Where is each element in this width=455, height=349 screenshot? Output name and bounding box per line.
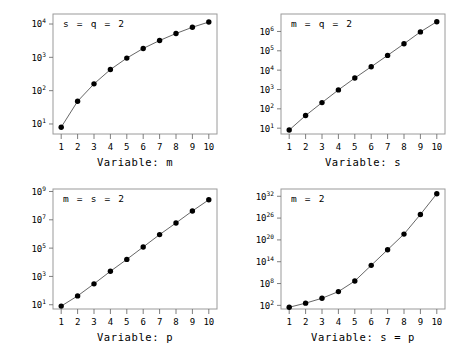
data-point-marker [287,127,292,132]
panel-annotation: m = 2 [291,193,326,204]
data-point-marker [141,244,146,249]
y-axis-tick-label: 105 [31,242,46,254]
y-axis-tick-label: 1020 [256,233,275,245]
x-axis-tick-label: 1 [286,317,291,327]
y-axis-tick-label: 101 [31,298,46,310]
data-point-marker [59,303,64,308]
y-axis-tick-label: 101 [31,117,46,129]
x-axis-tick-label: 9 [190,142,195,152]
data-point-marker [173,220,178,225]
data-point-marker [385,53,390,58]
x-axis-tick-label: 3 [319,317,324,327]
data-point-marker [157,38,162,43]
data-point-marker [418,212,423,217]
x-axis-tick-label: 1 [58,317,63,327]
x-axis-tick-label: 3 [319,142,324,152]
panel-annotation: m = s = 2 [63,193,125,204]
x-axis-tick-label: 10 [203,142,214,152]
data-point-marker [352,75,357,80]
data-point-marker [385,247,390,252]
x-axis-tick-label: 6 [368,142,373,152]
panel-annotation: s = q = 2 [63,18,125,29]
data-point-marker [190,208,195,213]
x-axis-tick-label: 8 [173,317,178,327]
x-axis-tick-label: 1 [286,142,291,152]
x-axis-tick-label: 3 [91,142,96,152]
y-axis-tick-label: 102 [259,102,274,114]
y-axis-tick-label: 105 [259,44,274,56]
figure-panel-grid: 10110210310412345678910Variable: ms = q … [0,0,455,349]
y-axis-tick-label: 1014 [256,255,275,267]
x-axis-tick-label: 4 [108,142,113,152]
x-axis-tick-label: 6 [368,317,373,327]
y-axis-tick-label: 104 [31,17,46,29]
x-axis-tick-label: 5 [124,317,129,327]
x-axis-tick-label: 6 [140,142,145,152]
x-axis-tick-label: 7 [157,317,162,327]
y-axis-tick-label: 103 [31,51,46,63]
x-axis-tick-label: 2 [75,317,80,327]
data-point-marker [319,100,324,105]
data-point-marker [206,19,211,24]
data-point-marker [59,125,64,130]
data-point-marker [141,46,146,51]
x-axis-tick-label: 7 [157,142,162,152]
chart-panel: 10110210310410510612345678910Variable: s… [228,0,455,174]
x-axis-tick-label: 7 [385,142,390,152]
y-axis-tick-label: 102 [259,299,274,311]
y-axis-tick-label: 1032 [256,190,275,202]
x-axis-title: Variable: p [97,331,173,343]
panel-annotation: m = q = 2 [291,18,353,29]
data-point-marker [352,278,357,283]
data-point-marker [287,305,292,310]
data-point-marker [303,300,308,305]
y-axis-tick-label: 102 [31,84,46,96]
data-point-marker [434,19,439,24]
y-axis-tick-label: 106 [259,25,274,37]
x-axis-tick-label: 10 [431,142,442,152]
x-axis-tick-label: 4 [336,317,341,327]
x-axis-title: Variable: s = p [311,331,415,343]
y-axis-tick-label: 108 [259,277,274,289]
x-axis-tick-label: 7 [385,317,390,327]
x-axis-tick-label: 8 [401,142,406,152]
x-axis-tick-label: 1 [58,142,63,152]
data-point-marker [401,41,406,46]
data-point-marker [434,191,439,196]
y-axis-tick-label: 103 [31,270,46,282]
data-point-marker [206,197,211,202]
data-point-marker [369,263,374,268]
data-point-marker [75,293,80,298]
plot-frame [53,189,217,309]
data-point-marker [91,281,96,286]
data-point-marker [124,55,129,60]
data-point-marker [303,113,308,118]
x-axis-tick-label: 8 [173,142,178,152]
x-axis-tick-label: 9 [418,142,423,152]
data-point-marker [190,25,195,30]
y-axis-tick-label: 101 [259,122,274,134]
x-axis-tick-label: 2 [303,317,308,327]
x-axis-tick-label: 6 [140,317,145,327]
y-axis-tick-label: 1026 [256,211,275,223]
data-point-marker [401,231,406,236]
data-point-marker [91,81,96,86]
x-axis-tick-label: 4 [336,142,341,152]
data-point-marker [418,29,423,34]
data-point-marker [319,296,324,301]
y-axis-tick-label: 104 [259,64,274,76]
data-point-marker [336,289,341,294]
x-axis-tick-label: 10 [431,317,442,327]
plot-frame [53,14,217,134]
x-axis-tick-label: 9 [418,317,423,327]
x-axis-tick-label: 10 [203,317,214,327]
x-axis-title: Variable: s [325,156,401,168]
y-axis-tick-label: 109 [31,185,46,197]
data-point-marker [369,64,374,69]
data-point-marker [157,232,162,237]
x-axis-tick-label: 2 [303,142,308,152]
x-axis-tick-label: 8 [401,317,406,327]
y-axis-tick-label: 103 [259,83,274,95]
y-axis-tick-label: 107 [31,213,46,225]
chart-panel: 102108101410201026103212345678910Variabl… [228,175,455,349]
